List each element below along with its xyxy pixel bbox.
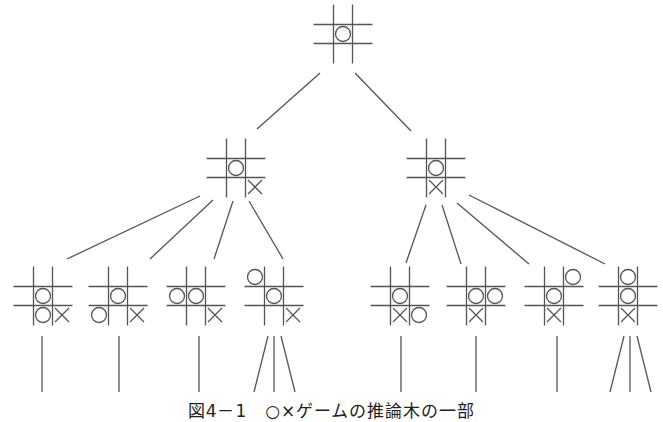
- x-mark-icon: [55, 308, 69, 322]
- x-mark-icon: [469, 308, 483, 322]
- o-mark-icon: [267, 289, 282, 304]
- board-L2h: [599, 267, 658, 326]
- x-mark-icon: [393, 308, 407, 322]
- tree-edge: [442, 205, 461, 264]
- tree-edge: [249, 201, 283, 259]
- x-mark-icon: [130, 308, 144, 322]
- o-mark-icon: [621, 270, 636, 285]
- o-mark-icon: [336, 27, 351, 42]
- board-L2e: [371, 267, 430, 326]
- o-mark-icon: [36, 308, 51, 323]
- board-L2d: [245, 267, 304, 326]
- o-mark-icon: [92, 308, 107, 323]
- board-L1a: [207, 139, 266, 198]
- o-mark-icon: [488, 289, 503, 304]
- o-mark-icon: [229, 161, 244, 176]
- tree-edge: [406, 205, 426, 263]
- tree-edges: [67, 73, 605, 264]
- board-L2c: [167, 267, 226, 326]
- figure-caption: 図4－1 ○×ゲームの推論木の一部: [0, 397, 663, 422]
- o-mark-icon: [36, 289, 51, 304]
- x-mark-icon: [547, 308, 561, 322]
- board-L1b: [407, 139, 466, 198]
- tree-edge: [214, 201, 233, 259]
- x-mark-icon: [621, 308, 635, 322]
- o-mark-icon: [412, 308, 427, 323]
- o-mark-icon: [621, 289, 636, 304]
- o-mark-icon: [111, 289, 126, 304]
- o-mark-icon: [170, 289, 185, 304]
- o-mark-icon: [248, 270, 263, 285]
- board-L2b: [89, 267, 148, 326]
- tree-edge: [257, 73, 320, 129]
- o-mark-icon: [393, 289, 408, 304]
- board-L2a: [14, 267, 73, 326]
- tree-edge: [457, 203, 529, 264]
- tree-continuation-lines: [42, 336, 651, 392]
- x-mark-icon: [286, 308, 300, 322]
- tree-boards: [14, 5, 658, 326]
- o-mark-icon: [189, 289, 204, 304]
- tree-edge: [150, 200, 213, 259]
- tree-edge: [67, 196, 200, 259]
- x-mark-icon: [208, 308, 222, 322]
- board-L2g: [525, 267, 584, 326]
- tree-edge: [355, 73, 411, 131]
- o-mark-icon: [429, 161, 444, 176]
- x-mark-icon: [248, 180, 262, 194]
- o-mark-icon: [566, 270, 581, 285]
- continuation-line: [610, 336, 624, 392]
- tree-edge: [469, 195, 605, 264]
- o-mark-icon: [469, 289, 484, 304]
- o-mark-icon: [547, 289, 562, 304]
- continuation-line: [281, 336, 295, 392]
- board-L2f: [447, 267, 506, 326]
- continuation-line: [254, 336, 268, 392]
- x-mark-icon: [429, 180, 443, 194]
- continuation-line: [637, 336, 651, 392]
- board-root: [314, 5, 373, 64]
